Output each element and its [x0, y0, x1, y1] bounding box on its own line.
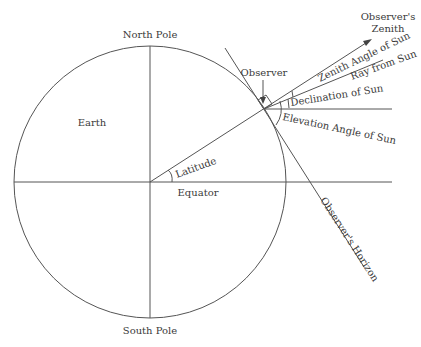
equator-label: Equator: [178, 187, 219, 198]
observer-label: Observer: [241, 67, 288, 78]
zenith-label-line1: Observer's: [361, 11, 416, 22]
declination-tick: [288, 99, 289, 108]
south-pole-label: South Pole: [123, 325, 177, 336]
north-pole-label: North Pole: [123, 29, 178, 40]
elevation-angle-label: Elevation Angle of Sun: [282, 111, 398, 146]
latitude-label: Latitude: [174, 155, 218, 180]
latitude-arc: [168, 170, 172, 182]
earth-sun-angle-diagram: North Pole South Pole Earth Equator Lati…: [0, 0, 421, 347]
earth-label: Earth: [78, 117, 107, 128]
declination-label: Declination of Sun: [290, 82, 385, 108]
zenith-line: [150, 41, 369, 182]
zenith-arrowhead-icon: [363, 39, 372, 46]
horizon-label: Observer's Horizon: [318, 195, 381, 284]
elevation-angle-arc: [276, 101, 281, 125]
